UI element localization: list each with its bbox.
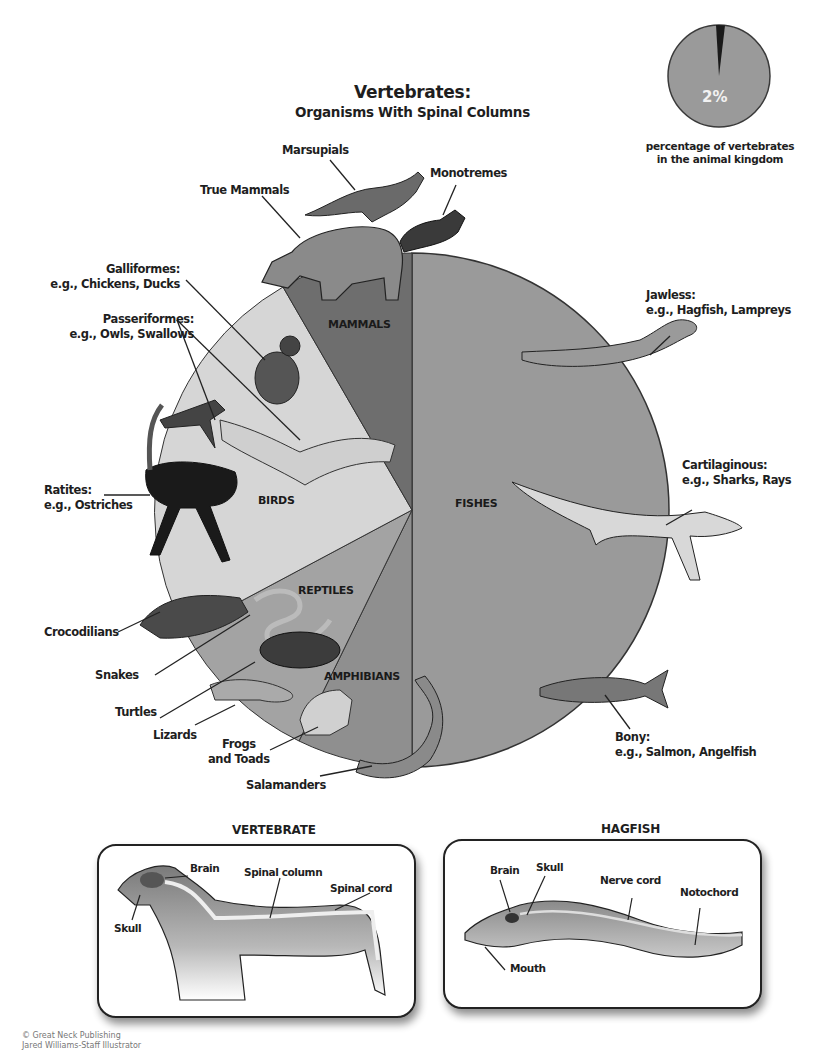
callout-marsupials: Marsupials <box>282 143 349 158</box>
callout-bony-name: Bony: <box>615 730 756 745</box>
kangaroo-icon <box>305 172 424 222</box>
callout-ratites: Ratites: e.g., Ostriches <box>44 483 133 513</box>
vertebrate-skull-label: Skull <box>114 922 141 934</box>
callout-cartilaginous-name: Cartilaginous: <box>682 458 791 473</box>
hagfish-skull-label: Skull <box>536 861 563 873</box>
hagfish-brain-icon <box>505 913 519 923</box>
callout-ratites-name: Ratites: <box>44 483 133 498</box>
callout-jawless-name: Jawless: <box>646 288 791 303</box>
segment-label-reptiles: REPTILES <box>298 584 354 597</box>
callout-snakes: Snakes <box>95 668 139 683</box>
duck-head-icon <box>280 336 300 356</box>
duck-icon <box>255 352 299 404</box>
callout-cartilaginous: Cartilaginous: e.g., Sharks, Rays <box>682 458 791 488</box>
credit-publisher: © Great Neck Publishing <box>22 1031 141 1041</box>
callout-passeriformes-examples: e.g., Owls, Swallows <box>20 327 194 342</box>
platypus-icon <box>400 210 465 252</box>
callout-monotremes: Monotremes <box>430 166 507 181</box>
vertebrate-spinal-column-label: Spinal column <box>244 866 322 878</box>
callout-galliformes-name: Galliformes: <box>20 262 180 277</box>
callout-bony-examples: e.g., Salmon, Angelfish <box>615 745 756 760</box>
callout-jawless-examples: e.g., Hagfish, Lampreys <box>646 303 791 318</box>
callout-jawless: Jawless: e.g., Hagfish, Lampreys <box>646 288 791 318</box>
callout-cartilaginous-examples: e.g., Sharks, Rays <box>682 473 791 488</box>
callout-lizards: Lizards <box>153 728 197 743</box>
vertebrate-inset-title: VERTEBRATE <box>232 823 316 837</box>
callout-ratites-examples: e.g., Ostriches <box>44 498 133 513</box>
callout-bony: Bony: e.g., Salmon, Angelfish <box>615 730 756 760</box>
image-credit: © Great Neck Publishing Jared Williams-S… <box>22 1031 141 1051</box>
callout-frogs-toads: Frogs and Toads <box>208 737 270 767</box>
hagfish-notochord-label: Notochord <box>680 886 738 898</box>
mini-pie-caption: percentage of vertebrates in the animal … <box>630 140 810 166</box>
segment-label-mammals: MAMMALS <box>328 318 391 331</box>
callout-galliformes: Galliformes: e.g., Chickens, Ducks <box>20 262 180 292</box>
callout-passeriformes: Passeriformes: e.g., Owls, Swallows <box>20 312 194 342</box>
segment-label-amphibians: AMPHIBIANS <box>324 670 400 683</box>
callout-salamanders: Salamanders <box>246 778 326 793</box>
callout-turtles: Turtles <box>115 705 157 720</box>
mini-pie-caption-line1: percentage of vertebrates <box>630 140 810 153</box>
hagfish-inset-title: HAGFISH <box>601 822 660 836</box>
callout-galliformes-examples: e.g., Chickens, Ducks <box>20 277 180 292</box>
segment-label-birds: BIRDS <box>258 494 295 507</box>
mini-pie-percent-label: 2% <box>702 88 727 106</box>
turtle-icon <box>260 632 340 668</box>
dog-brain-icon <box>140 872 164 888</box>
vertebrate-spinal-cord-label: Spinal cord <box>330 882 392 894</box>
hagfish-brain-label: Brain <box>490 864 519 876</box>
callout-crocodilians: Crocodilians <box>44 625 119 640</box>
vertebrate-brain-label: Brain <box>190 862 219 874</box>
segment-label-fishes: FISHES <box>455 497 497 510</box>
credit-illustrator: Jared Williams-Staff Illustrator <box>22 1041 141 1051</box>
page-subtitle: Organisms With Spinal Columns <box>0 104 825 120</box>
callout-toads: and Toads <box>208 752 270 767</box>
hagfish-mouth-label: Mouth <box>510 962 546 974</box>
mini-pie-caption-line2: in the animal kingdom <box>630 153 810 166</box>
callout-frogs: Frogs <box>208 737 270 752</box>
callout-passeriformes-name: Passeriformes: <box>20 312 194 327</box>
callout-true-mammals: True Mammals <box>200 183 289 198</box>
hagfish-nerve-cord-label: Nerve cord <box>600 874 661 886</box>
